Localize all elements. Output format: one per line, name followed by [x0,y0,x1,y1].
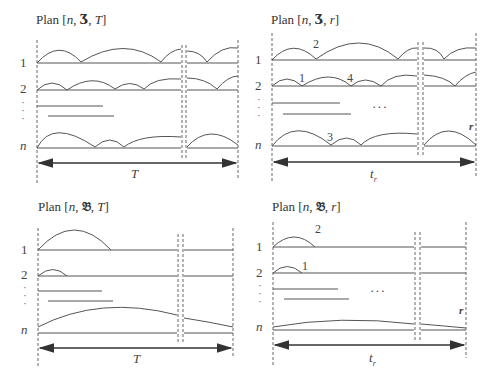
panel-title-bottom-left: Plan [n, 𝔅, T] [38,199,109,215]
span-label-sub: r [373,359,376,368]
span-label-T: T [131,166,138,182]
span-label-tr: tr [370,166,377,184]
title-symbol: 𝔅 [82,199,91,214]
row-label-n: n [21,322,28,338]
row-label-1: 1 [21,242,28,258]
row-label-1: 1 [255,52,262,68]
span-label-sub: r [374,175,377,184]
title-suffix: ] [102,12,106,27]
vertical-ellipsis: · · · [256,96,262,120]
title-suffix: ] [336,199,340,214]
panel-bottom-left [38,228,233,366]
row-label-2: 2 [20,81,27,97]
vertical-ellipsis: · · · [257,282,263,306]
annotation-3: 3 [327,130,333,145]
row-n-timeline [272,131,476,146]
row-2-timeline [38,270,233,277]
vertical-ellipsis: · · · [22,284,28,308]
title-n: n [303,199,310,214]
title-prefix: Plan [ [272,199,303,214]
panel-title-top-left: Plan [n, Ʒ, T] [36,12,106,28]
row-1-timeline [37,48,238,63]
vertical-ellipsis: · · · [20,99,26,123]
panel-top-left [37,40,238,183]
annotation-r: r [469,120,473,132]
horizontal-ellipsis: ··· [372,99,388,115]
panel-title-top-right: Plan [n, Ʒ, r] [271,12,339,28]
title-symbol: Ʒ [315,12,324,27]
title-n: n [67,12,74,27]
row-label-2: 2 [255,78,262,94]
title-suffix: ] [104,199,108,214]
row-label-n: n [256,319,263,335]
annotation-r: r [459,304,463,316]
title-prefix: Plan [ [271,12,302,27]
title-symbol: 𝔅 [316,199,325,214]
row-label-2: 2 [21,267,28,283]
title-prefix: Plan [ [38,199,69,214]
annotation-4: 4 [347,71,353,86]
row-label-1: 1 [20,55,27,71]
title-symbol: Ʒ [80,12,89,27]
span-label-T: T [133,351,140,367]
title-suffix: ] [335,12,339,27]
dashed-boundaries [38,228,233,366]
horizontal-ellipsis: ··· [370,283,386,299]
row-label-1: 1 [256,239,263,255]
span-label-tr: tr [369,350,376,368]
row-1-timeline [38,230,233,250]
diagram-canvas [0,0,494,377]
row-label-2: 2 [256,265,263,281]
annotation-1: 1 [302,259,308,274]
row-n-timeline [273,320,466,330]
row-2-timeline [37,76,238,90]
annotation-2: 2 [313,37,319,52]
annotation-2: 2 [315,222,321,237]
panel-title-bottom-right: Plan [n, 𝔅, r] [272,199,341,215]
title-last: T [95,12,102,27]
title-prefix: Plan [ [36,12,67,27]
row-1-timeline [273,237,466,247]
annotation-1: 1 [299,71,305,86]
row-label-n: n [255,137,262,153]
row-n-timeline [37,133,238,148]
row-n-timeline [38,307,233,333]
row-label-n: n [20,138,27,154]
title-n: n [302,12,309,27]
title-n: n [69,199,76,214]
row-1-timeline [272,43,476,60]
